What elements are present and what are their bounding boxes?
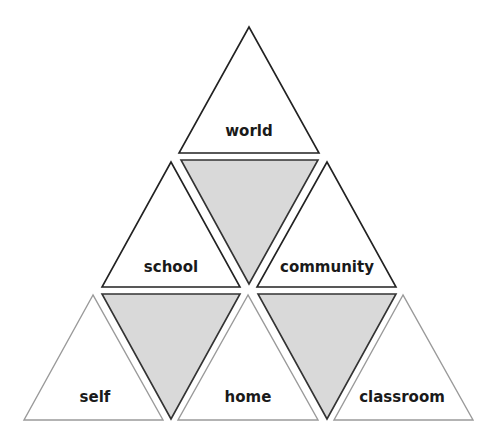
label-home: home <box>225 388 272 406</box>
label-classroom: classroom <box>359 388 445 406</box>
label-self: self <box>80 388 111 406</box>
label-community: community <box>280 258 374 276</box>
label-world: world <box>225 122 272 140</box>
triangle-world: world <box>179 27 319 153</box>
label-school: school <box>144 258 198 276</box>
pyramid-diagram: world school community self home classro… <box>0 0 496 443</box>
